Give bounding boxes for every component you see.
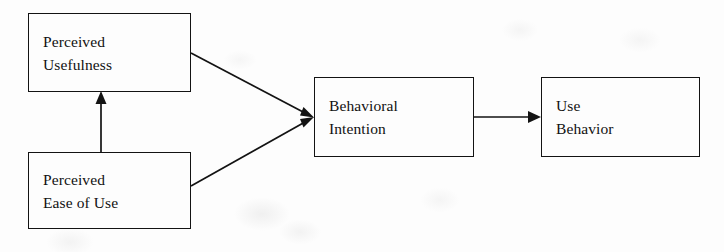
node-label-line2: Intention <box>329 117 473 140</box>
node-use-behavior: Use Behavior <box>541 77 700 157</box>
edge-usefulness-to-intention <box>191 53 314 118</box>
edge-ease-to-intention <box>191 117 314 186</box>
node-behavioral-intention: Behavioral Intention <box>314 77 474 157</box>
edge-ease-to-usefulness <box>96 91 107 152</box>
node-label-line1: Behavioral <box>329 94 473 117</box>
node-label-line1: Perceived <box>43 30 190 53</box>
node-perceived-usefulness: Perceived Usefulness <box>28 13 191 92</box>
edge-intention-to-behavior <box>474 111 541 123</box>
node-label-line1: Use <box>556 94 699 117</box>
tam-diagram: Perceived Usefulness Perceived Ease of U… <box>0 0 724 252</box>
node-label-line2: Ease of Use <box>43 191 190 214</box>
node-perceived-ease-of-use: Perceived Ease of Use <box>28 152 191 229</box>
node-label-line2: Usefulness <box>43 53 190 76</box>
node-label-line1: Perceived <box>43 168 190 191</box>
node-label-line2: Behavior <box>556 117 699 140</box>
